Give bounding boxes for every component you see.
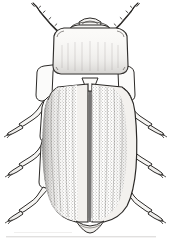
scan-artifact-mark	[14, 232, 72, 233]
beetle-illustration	[0, 0, 181, 241]
scan-artifact-band	[6, 236, 156, 237]
beetle-figure	[0, 0, 181, 241]
pronotum	[53, 28, 128, 74]
